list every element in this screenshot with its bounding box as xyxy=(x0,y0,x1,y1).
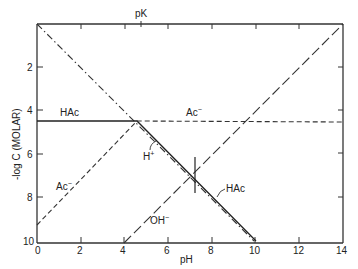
left-axis-ticks xyxy=(37,67,43,197)
svg-text:2: 2 xyxy=(27,62,33,73)
svg-text:6: 6 xyxy=(164,245,170,256)
label-hac-top: HAc xyxy=(60,107,79,118)
y-axis-title: -log C (MOLAR) xyxy=(11,108,22,180)
svg-text:2: 2 xyxy=(77,245,83,256)
label-hac-right: HAc xyxy=(226,183,245,194)
right-axis-ticks xyxy=(338,67,343,197)
acid-base-log-concentration-chart: pK 0 2 4 6 8 10 12 14 pH 2 4 6 8 10 -log… xyxy=(0,0,358,269)
plot-frame xyxy=(37,24,343,243)
top-axis-ticks xyxy=(81,21,299,29)
label-ac-minus-left: Ac− xyxy=(56,180,72,192)
label-ac-minus-top: Ac− xyxy=(186,106,202,118)
svg-text:8: 8 xyxy=(27,192,33,203)
h-plus-line xyxy=(37,24,254,241)
bottom-axis-ticks xyxy=(81,237,299,243)
label-oh-minus: OH− xyxy=(150,214,169,226)
svg-text:14: 14 xyxy=(336,245,348,256)
svg-text:10: 10 xyxy=(23,236,35,247)
svg-text:4: 4 xyxy=(120,245,126,256)
h-plus-leader xyxy=(150,141,156,150)
hac-right-leader xyxy=(217,189,225,197)
pk-label: pK xyxy=(135,8,148,19)
ac-minus-line xyxy=(37,121,343,225)
svg-text:12: 12 xyxy=(293,245,305,256)
x-axis-title: pH xyxy=(180,254,193,265)
svg-text:4: 4 xyxy=(27,105,33,116)
svg-text:0: 0 xyxy=(35,245,41,256)
label-h-plus: H+ xyxy=(143,150,154,162)
svg-text:10: 10 xyxy=(249,245,261,256)
y-tick-labels: 2 4 6 8 10 xyxy=(23,62,35,247)
svg-text:8: 8 xyxy=(208,245,214,256)
svg-text:6: 6 xyxy=(27,149,33,160)
oh-minus-line xyxy=(124,24,343,243)
